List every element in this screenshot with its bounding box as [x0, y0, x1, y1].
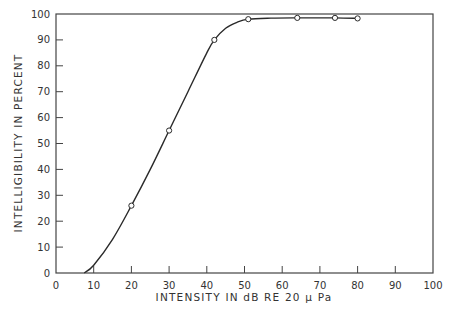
x-tick-label: 80 [351, 280, 364, 291]
data-point [246, 17, 251, 22]
x-tick-label: 10 [87, 280, 100, 291]
y-tick-label: 40 [37, 164, 50, 175]
y-tick-label: 60 [37, 112, 50, 123]
y-tick-label: 50 [37, 138, 50, 149]
data-point [332, 15, 337, 20]
data-point [295, 15, 300, 20]
intelligibility-chart: 0102030405060708090100010203040506070809… [0, 0, 451, 318]
data-point [355, 16, 360, 21]
y-tick-label: 0 [44, 268, 50, 279]
y-tick-label: 20 [37, 216, 50, 227]
x-tick-label: 90 [389, 280, 402, 291]
x-tick-label: 100 [423, 280, 442, 291]
y-axis-title: INTELLIGIBILITY IN PERCENT [12, 54, 24, 233]
x-tick-label: 60 [276, 280, 289, 291]
plot-frame [56, 14, 433, 273]
ticks: 0102030405060708090100010203040506070809… [31, 9, 443, 292]
x-tick-label: 50 [238, 280, 251, 291]
y-tick-label: 80 [37, 60, 50, 71]
x-axis-title: INTENSITY IN dB RE 20 μ Pa [156, 291, 333, 303]
x-tick-label: 0 [53, 280, 59, 291]
series-line [84, 18, 357, 273]
y-tick-label: 90 [37, 34, 50, 45]
x-tick-label: 30 [163, 280, 176, 291]
x-tick-label: 20 [125, 280, 138, 291]
data-point [167, 128, 172, 133]
series [84, 15, 360, 273]
x-tick-label: 40 [200, 280, 213, 291]
x-tick-label: 70 [314, 280, 327, 291]
y-tick-label: 10 [37, 242, 50, 253]
y-tick-label: 30 [37, 190, 50, 201]
data-point [129, 203, 134, 208]
axes [56, 14, 433, 273]
y-tick-label: 70 [37, 86, 50, 97]
data-point [212, 37, 217, 42]
y-tick-label: 100 [31, 9, 50, 20]
